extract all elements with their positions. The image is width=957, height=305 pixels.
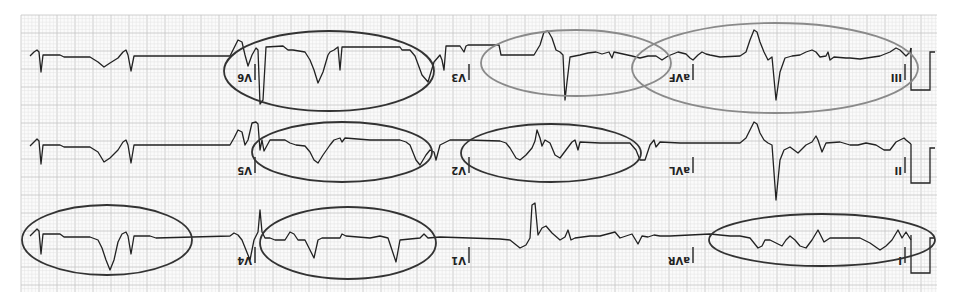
lead-label-avl: aVL xyxy=(669,165,690,176)
lead-label-iii: III xyxy=(891,72,902,83)
lead-label-v4: V4 xyxy=(237,255,252,266)
lead-label-ii: II xyxy=(895,165,902,176)
lead-label-avr: aVR xyxy=(668,255,690,266)
lead-label-v3: V3 xyxy=(451,72,466,83)
lead-label-v5: V5 xyxy=(237,165,252,176)
lead-label-i: I xyxy=(898,255,902,266)
lead-label-avf: aVF xyxy=(669,72,690,83)
lead-label-v6: V6 xyxy=(237,72,252,83)
ecg-figure: IIIaVFV3V6IIaVLV2V5IaVRV1V4 xyxy=(0,0,957,305)
lead-label-v2: V2 xyxy=(451,165,466,176)
lead-label-v1: V1 xyxy=(451,255,466,266)
